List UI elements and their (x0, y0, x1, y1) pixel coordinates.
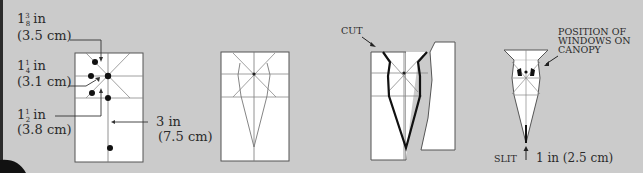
cut-label: CUT (341, 25, 363, 36)
marker-dot (89, 90, 95, 96)
marker-dot (107, 145, 113, 151)
dim-top-label: 138in (17, 11, 46, 28)
origami-instruction-diagram: 138in (3.5 cm) 114in (3.1 cm) 112in (3.8… (0, 0, 643, 173)
slit-length-label: 1 in (2.5 cm) (536, 151, 613, 165)
step1-paper (75, 53, 143, 162)
windows-label-line3: CANOPY (558, 44, 602, 55)
dim-top-metric: (3.5 cm) (17, 28, 72, 43)
marker-dot (105, 73, 111, 79)
marker-dot (92, 59, 98, 65)
cut-arrow-icon (370, 42, 376, 47)
page-edge-bar (0, 0, 3, 165)
windows-arrow-icon (544, 61, 549, 66)
dim-mid-label: 114in (17, 58, 46, 75)
step3-cutoff-piece (421, 42, 455, 150)
diagram-svg: 138in (3.5 cm) 114in (3.1 cm) 112in (3.8… (0, 0, 643, 173)
page-corner-shape (0, 160, 26, 173)
slit-arrow-icon (524, 146, 529, 151)
dim-right-label: 3 in (156, 114, 182, 129)
step2-paper (221, 52, 289, 161)
marker-dot (105, 95, 111, 101)
dim-right-metric: (7.5 cm) (158, 129, 213, 144)
dim-mid-metric: (3.1 cm) (17, 74, 72, 89)
marker-dot (88, 73, 94, 79)
step3-paper (371, 52, 428, 160)
step4-canopy (504, 50, 548, 143)
dim-low-metric: (3.8 cm) (17, 122, 72, 137)
slit-label: SLIT (494, 153, 518, 164)
